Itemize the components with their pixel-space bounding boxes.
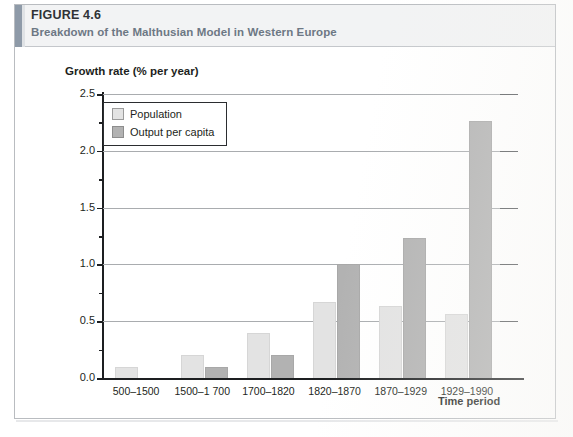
y-axis-tick-major [97, 151, 103, 153]
bar-population [445, 314, 468, 378]
legend-item-population: Population [112, 108, 182, 120]
legend-label-population: Population [130, 108, 182, 120]
bar-output-per-capita [205, 367, 228, 378]
x-axis-tick-label: 1929–1990 [422, 385, 512, 397]
x-axis-line [102, 378, 524, 380]
y-axis-tick-major [97, 321, 103, 323]
figure-number-label: FIGURE 4.6 [31, 8, 101, 22]
gridline [103, 264, 500, 265]
y-axis-tick-major [97, 264, 103, 266]
gridline-tick-right [500, 208, 518, 209]
legend-item-output-per-capita: Output per capita [112, 126, 214, 138]
legend-label-output-per-capita: Output per capita [130, 126, 214, 138]
gridline [103, 151, 500, 152]
figure-number-text: FIGURE 4.6 [31, 8, 101, 22]
y-axis-tick-label-text: 0.0 [80, 371, 95, 383]
y-axis-tick-label: 2.5 [55, 87, 95, 101]
gridline-tick-right [500, 321, 518, 322]
y-axis-tick-minor [99, 350, 103, 352]
figure-frame-shadow [16, 420, 558, 422]
gridline [103, 321, 500, 322]
figure-header-accent-bar [15, 5, 22, 47]
y-axis-title: Growth rate (% per year) [65, 65, 199, 77]
y-axis-tick-major [97, 208, 103, 210]
bar-output-per-capita [271, 355, 294, 378]
y-axis-tick-label: 1.5 [55, 201, 95, 215]
bar-output-per-capita [337, 264, 360, 378]
figure-title: Breakdown of the Malthusian Model in Wes… [31, 26, 337, 38]
gridline-tick-right [500, 94, 518, 95]
y-axis-tick-minor [99, 179, 103, 181]
figure-container: FIGURE 4.6 Breakdown of the Malthusian M… [0, 0, 573, 437]
legend-swatch-icon-output-per-capita [112, 126, 124, 138]
y-axis-tick-label: 0.5 [55, 314, 95, 328]
chart-area: Growth rate (% per year) Time period Pop… [15, 47, 555, 419]
y-axis-tick-label-text: 2.0 [80, 144, 95, 156]
legend-swatch-icon-population [112, 108, 124, 120]
gridline [103, 94, 500, 95]
y-axis-tick-minor [99, 293, 103, 295]
bar-population [115, 367, 138, 378]
y-axis-tick-label: 2.0 [55, 144, 95, 158]
y-axis-tick-major [97, 94, 103, 96]
bar-population [181, 355, 204, 378]
gridline [103, 208, 500, 209]
chart-legend: Population Output per capita [103, 102, 227, 146]
bar-output-per-capita [469, 121, 492, 378]
y-axis-tick-label-text: 1.0 [80, 257, 95, 269]
gridline-tick-right [500, 264, 518, 265]
bar-population [247, 333, 270, 378]
bar-population [313, 302, 336, 378]
y-axis-tick-minor [99, 236, 103, 238]
gridline-tick-right [500, 151, 518, 152]
bar-output-per-capita [403, 238, 426, 378]
y-axis-tick-major [97, 378, 103, 380]
y-axis-tick-label-text: 0.5 [80, 314, 95, 326]
y-axis-tick-label-text: 2.5 [80, 87, 95, 99]
figure-header-accent-inner [22, 5, 25, 47]
y-axis-tick-label: 0.0 [55, 371, 95, 385]
y-axis-tick-label-text: 1.5 [80, 201, 95, 213]
bar-population [379, 306, 402, 378]
y-axis-tick-label: 1.0 [55, 257, 95, 271]
